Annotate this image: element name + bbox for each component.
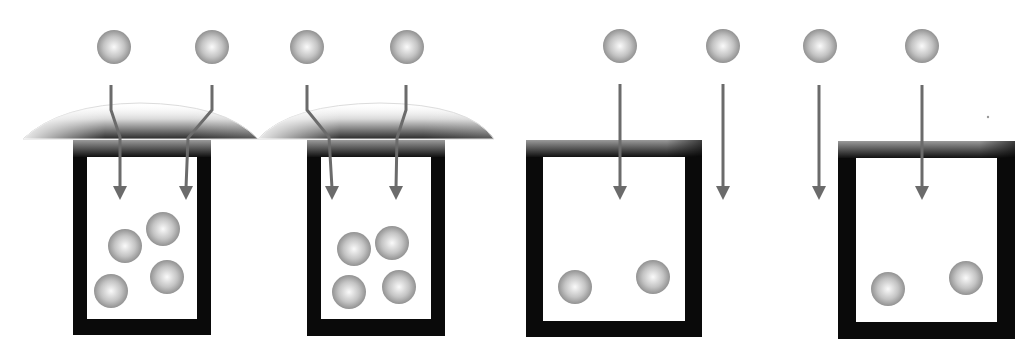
- particle-icon: [803, 29, 837, 63]
- collected-particle-icon: [558, 270, 592, 304]
- collected-particle-icon: [94, 274, 128, 308]
- container-opening: [73, 140, 211, 157]
- collected-particle-icon: [150, 260, 184, 294]
- collected-particle-icon: [375, 226, 409, 260]
- collected-particle-icon: [382, 270, 416, 304]
- panel-lens-2: [258, 85, 494, 336]
- particle-icon: [97, 30, 131, 64]
- particle-icon: [603, 29, 637, 63]
- collected-particle-icon: [337, 232, 371, 266]
- particle-icon: [195, 30, 229, 64]
- panel-no-lens-1: [526, 84, 730, 337]
- particle-icon: [290, 30, 324, 64]
- collected-particle-icon: [146, 212, 180, 246]
- panel-no-lens-2: [812, 85, 1015, 339]
- incoming-particles: [97, 29, 939, 64]
- particle-icon: [905, 29, 939, 63]
- collected-particle-icon: [332, 275, 366, 309]
- collected-particle-icon: [949, 261, 983, 295]
- lens-collection-diagram: [0, 0, 1030, 358]
- panel-lens-1: [23, 85, 258, 335]
- container-opening: [307, 140, 445, 157]
- collected-particle-icon: [871, 272, 905, 306]
- collected-particle-icon: [636, 260, 670, 294]
- collected-particle-icon: [108, 229, 142, 263]
- particle-icon: [390, 30, 424, 64]
- particle-icon: [706, 29, 740, 63]
